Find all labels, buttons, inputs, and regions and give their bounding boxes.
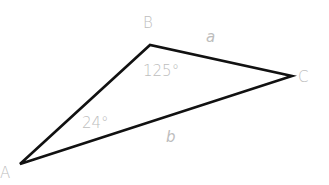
side-label-b: b: [166, 130, 176, 145]
angle-label-b: 125°: [143, 64, 179, 79]
side-label-a: a: [206, 30, 215, 45]
angle-label-a: 24°: [82, 116, 109, 131]
triangle-diagram: B C A a b 125° 24°: [0, 0, 329, 185]
triangle-shape: [0, 0, 329, 185]
vertex-label-a: A: [0, 166, 10, 181]
vertex-label-b: B: [143, 16, 153, 31]
vertex-label-c: C: [298, 70, 308, 85]
